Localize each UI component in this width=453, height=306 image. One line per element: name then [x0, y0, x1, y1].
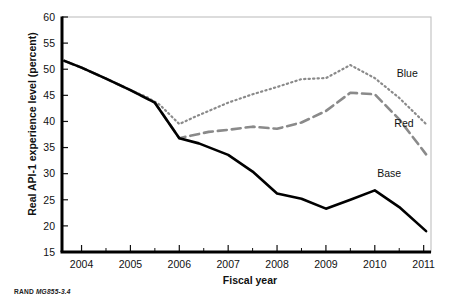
svg-text:40: 40 — [43, 115, 55, 127]
axis-ticks — [62, 17, 424, 252]
svg-text:55: 55 — [43, 37, 55, 49]
svg-text:2007: 2007 — [216, 258, 240, 270]
chart-figure: Real API-1 experience level (percent) Fi… — [0, 0, 453, 306]
svg-text:2006: 2006 — [168, 258, 192, 270]
svg-text:35: 35 — [43, 141, 55, 153]
series-line-blue — [64, 61, 426, 124]
svg-text:30: 30 — [43, 167, 55, 179]
svg-text:60: 60 — [43, 11, 55, 23]
line-chart-plot: 1520253035404550556020042005200620072008… — [0, 0, 453, 306]
svg-text:2009: 2009 — [314, 258, 338, 270]
svg-text:45: 45 — [43, 89, 55, 101]
figure-credit: RAND MG855-3.4 — [14, 288, 71, 295]
svg-text:2004: 2004 — [70, 258, 94, 270]
series-annotations: BlueRedBase — [377, 67, 418, 180]
main-axes — [61, 17, 432, 253]
svg-text:2011: 2011 — [412, 258, 435, 270]
credit-id: MG855-3.4 — [36, 288, 71, 295]
svg-text:2005: 2005 — [119, 258, 143, 270]
axis-tick-labels: 1520253035404550556020042005200620072008… — [43, 11, 435, 270]
plot-frame — [62, 17, 431, 252]
svg-text:2008: 2008 — [265, 258, 289, 270]
series-label-red: Red — [394, 117, 413, 129]
svg-text:2010: 2010 — [363, 258, 387, 270]
svg-text:25: 25 — [43, 194, 55, 206]
svg-text:15: 15 — [43, 246, 55, 258]
series-label-base: Base — [377, 167, 401, 179]
credit-org: RAND — [14, 288, 34, 295]
series-label-blue: Blue — [397, 67, 418, 79]
series-line-red — [64, 61, 426, 154]
svg-text:20: 20 — [43, 220, 55, 232]
svg-text:50: 50 — [43, 63, 55, 75]
data-series-group — [64, 61, 426, 231]
series-line-base — [64, 61, 426, 231]
